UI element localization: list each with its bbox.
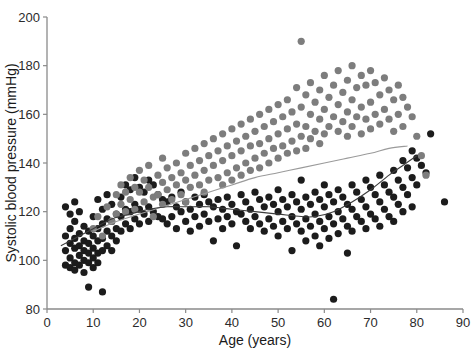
data-point — [164, 186, 171, 193]
data-point — [265, 215, 272, 222]
data-point — [330, 113, 337, 120]
tick-marks — [43, 17, 463, 313]
data-point — [307, 111, 314, 118]
data-point — [316, 218, 323, 225]
data-point — [238, 147, 245, 154]
data-point — [390, 128, 397, 135]
data-point — [307, 201, 314, 208]
data-point — [233, 138, 240, 145]
data-point — [348, 228, 355, 235]
data-point — [224, 169, 231, 176]
data-point — [242, 159, 249, 166]
data-point — [99, 232, 106, 239]
data-point — [164, 220, 171, 227]
data-point — [339, 89, 346, 96]
data-point — [427, 130, 434, 137]
y-axis-title: Systolic blood pressure (mmHg) — [3, 63, 19, 262]
data-point — [376, 172, 383, 179]
data-point — [344, 77, 351, 84]
y-tick-label: 140 — [18, 156, 40, 171]
data-point — [321, 181, 328, 188]
data-point — [279, 142, 286, 149]
data-point — [298, 103, 305, 110]
data-point — [164, 164, 171, 171]
data-point — [409, 174, 416, 181]
data-point — [99, 288, 106, 295]
data-point — [330, 296, 337, 303]
data-point — [251, 189, 258, 196]
data-point — [284, 125, 291, 132]
data-point — [293, 147, 300, 154]
data-point — [127, 225, 134, 232]
data-point — [191, 213, 198, 220]
data-point — [233, 242, 240, 249]
x-tick-labels: 0102030405060708090 — [43, 315, 470, 330]
data-point — [413, 181, 420, 188]
data-point — [311, 128, 318, 135]
data-point — [270, 145, 277, 152]
data-point — [205, 152, 212, 159]
data-point — [256, 196, 263, 203]
data-point — [344, 249, 351, 256]
data-point — [145, 184, 152, 191]
data-point — [214, 147, 221, 154]
data-point — [85, 284, 92, 291]
data-point — [210, 237, 217, 244]
data-point — [261, 228, 268, 235]
data-point — [168, 213, 175, 220]
y-tick-label: 100 — [18, 253, 40, 268]
data-point — [154, 191, 161, 198]
data-point — [80, 269, 87, 276]
data-point — [113, 191, 120, 198]
data-point — [224, 213, 231, 220]
data-point — [228, 176, 235, 183]
data-point — [372, 79, 379, 86]
data-point — [261, 203, 268, 210]
data-point — [358, 218, 365, 225]
data-point — [311, 99, 318, 106]
data-point — [344, 133, 351, 140]
data-point — [201, 167, 208, 174]
y-tick-label: 120 — [18, 204, 40, 219]
data-point — [302, 237, 309, 244]
y-tick-labels: 80100120140160180200 — [18, 10, 40, 317]
y-tick-label: 200 — [18, 10, 40, 25]
y-tick-label: 180 — [18, 58, 40, 73]
data-point — [219, 225, 226, 232]
data-point — [316, 116, 323, 123]
data-point — [418, 162, 425, 169]
data-point — [339, 193, 346, 200]
data-point — [228, 220, 235, 227]
data-point — [372, 191, 379, 198]
data-point — [284, 203, 291, 210]
x-tick-label: 90 — [456, 315, 470, 330]
chart-figure: 80100120140160180200 0102030405060708090… — [0, 0, 475, 353]
data-point — [413, 133, 420, 140]
data-point — [316, 242, 323, 249]
data-point — [205, 176, 212, 183]
data-point — [219, 130, 226, 137]
data-point — [168, 174, 175, 181]
data-point — [321, 203, 328, 210]
data-point — [358, 130, 365, 137]
data-point — [154, 172, 161, 179]
data-point — [136, 189, 143, 196]
data-point — [247, 116, 254, 123]
data-point — [381, 106, 388, 113]
data-point — [145, 162, 152, 169]
data-point — [409, 147, 416, 154]
data-point — [353, 84, 360, 91]
data-point — [316, 140, 323, 147]
data-point — [348, 206, 355, 213]
data-point — [247, 142, 254, 149]
data-point — [390, 193, 397, 200]
data-point — [316, 86, 323, 93]
data-point — [307, 135, 314, 142]
data-point — [321, 106, 328, 113]
data-point — [362, 225, 369, 232]
data-point — [168, 196, 175, 203]
data-point — [376, 223, 383, 230]
data-point — [67, 225, 74, 232]
data-point — [307, 223, 314, 230]
data-point — [422, 172, 429, 179]
